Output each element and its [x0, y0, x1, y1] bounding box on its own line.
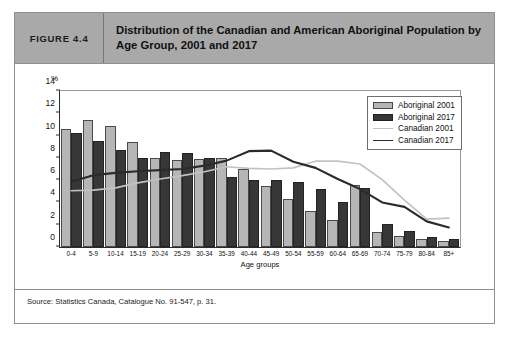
bar-aboriginal-2017-35-39 — [227, 177, 237, 247]
y-axis-tick-mark — [56, 90, 60, 91]
bar-group: 20-24 — [149, 91, 171, 247]
x-axis-tick-label: 85+ — [443, 250, 454, 257]
bar-aboriginal-2017-60-64 — [338, 202, 348, 247]
source-divider — [15, 289, 494, 290]
legend-swatch-icon — [373, 114, 393, 121]
bar-aboriginal-2001-40-44 — [238, 169, 248, 247]
x-axis-tick-label: 25-29 — [174, 250, 190, 257]
legend-label: Canadian 2017 — [398, 136, 454, 145]
x-axis-tick-label: 5-9 — [89, 250, 98, 257]
bar-aboriginal-2001-15-19 — [127, 142, 137, 247]
bar-group: 15-19 — [127, 91, 149, 247]
chart-area: % 0-45-910-1415-1920-2425-2930-3435-3940… — [15, 64, 494, 290]
bar-aboriginal-2001-50-54 — [283, 199, 293, 247]
x-axis-tick-label: 45-49 — [263, 250, 279, 257]
legend-label: Aboriginal 2001 — [398, 101, 455, 110]
bar-aboriginal-2001-35-39 — [216, 158, 226, 247]
y-axis-tick-mark — [56, 223, 60, 224]
legend-item-aboriginal-2017: Aboriginal 2017 — [373, 113, 455, 122]
bar-group: 45-49 — [260, 91, 282, 247]
y-axis-tick-mark — [56, 201, 60, 202]
bar-group: 55-59 — [304, 91, 326, 247]
bar-aboriginal-2017-30-34 — [204, 158, 214, 247]
figure-title: Distribution of the Canadian and America… — [104, 13, 494, 63]
chart-legend: Aboriginal 2001 Aboriginal 2017 Canadian… — [367, 96, 462, 150]
x-axis-tick-label: 15-19 — [130, 250, 146, 257]
x-axis-tick-label: 75-79 — [396, 250, 412, 257]
y-axis-tick-label: 2 — [50, 210, 60, 220]
x-axis-tick-label: 70-74 — [374, 250, 390, 257]
bar-aboriginal-2017-65-69 — [360, 188, 370, 247]
bar-aboriginal-2001-25-29 — [172, 160, 182, 247]
bar-aboriginal-2001-45-49 — [261, 186, 271, 247]
x-axis-tick-label: 60-64 — [330, 250, 346, 257]
bar-aboriginal-2001-30-34 — [194, 159, 204, 247]
y-axis-tick-mark — [56, 112, 60, 113]
y-axis-tick-label: 0 — [50, 232, 60, 242]
x-axis-tick-label: 20-24 — [152, 250, 168, 257]
bar-aboriginal-2001-70-74 — [372, 232, 382, 247]
bar-group: 40-44 — [238, 91, 260, 247]
legend-line-icon — [373, 140, 393, 141]
legend-item-canadian-2017: Canadian 2017 — [373, 136, 455, 145]
x-axis-tick-label: 50-54 — [285, 250, 301, 257]
bar-aboriginal-2017-25-29 — [182, 153, 192, 247]
x-axis-tick-label: 65-69 — [352, 250, 368, 257]
bar-aboriginal-2017-70-74 — [382, 224, 392, 247]
x-axis-tick-label: 10-14 — [107, 250, 123, 257]
bar-group: 30-34 — [193, 91, 215, 247]
bar-aboriginal-2017-50-54 — [293, 182, 303, 247]
figure-card: FIGURE 4.4 Distribution of the Canadian … — [14, 12, 495, 324]
bar-aboriginal-2001-55-59 — [305, 211, 315, 247]
bar-aboriginal-2017-15-19 — [138, 158, 148, 247]
bar-group: 0-4 — [60, 91, 82, 247]
legend-item-aboriginal-2001: Aboriginal 2001 — [373, 101, 455, 110]
x-axis-tick-label: 0-4 — [66, 250, 75, 257]
y-axis-tick-label: 8 — [50, 143, 60, 153]
bar-group: 5-9 — [82, 91, 104, 247]
x-axis-tick-label: 30-34 — [196, 250, 212, 257]
y-axis-tick-mark — [56, 156, 60, 157]
legend-label: Canadian 2001 — [398, 124, 454, 133]
figure-number: FIGURE 4.4 — [15, 13, 104, 63]
y-axis-tick-label: 12 — [46, 98, 60, 108]
bar-aboriginal-2001-60-64 — [327, 220, 337, 247]
bar-group: 60-64 — [327, 91, 349, 247]
x-axis-tick-label: 40-44 — [241, 250, 257, 257]
y-axis-tick-label: 10 — [46, 121, 60, 131]
bar-aboriginal-2017-45-49 — [271, 180, 281, 247]
y-axis-tick-label: 14 — [46, 76, 60, 86]
bar-group: 50-54 — [282, 91, 304, 247]
bar-aboriginal-2001-0-4 — [61, 129, 71, 247]
bar-aboriginal-2001-80-84 — [416, 239, 426, 247]
x-axis-tick-label: 35-39 — [218, 250, 234, 257]
bar-group: 35-39 — [216, 91, 238, 247]
y-axis-tick-mark — [56, 179, 60, 180]
y-axis-tick-mark — [56, 246, 60, 247]
bar-aboriginal-2017-10-14 — [116, 150, 126, 247]
bar-aboriginal-2001-75-79 — [394, 236, 404, 247]
bar-group: 10-14 — [104, 91, 126, 247]
y-axis-tick-label: 6 — [50, 165, 60, 175]
bar-aboriginal-2001-20-24 — [150, 158, 160, 247]
y-axis-tick-label: 4 — [50, 187, 60, 197]
legend-line-icon — [373, 128, 393, 129]
bar-aboriginal-2017-85+ — [449, 239, 459, 247]
bar-aboriginal-2001-65-69 — [350, 185, 360, 247]
source-note: Source: Statistics Canada, Catalogue No.… — [27, 297, 216, 306]
x-axis-title: Age groups — [59, 260, 461, 269]
bar-aboriginal-2017-75-79 — [404, 231, 414, 247]
legend-label: Aboriginal 2017 — [398, 113, 455, 122]
bar-aboriginal-2017-20-24 — [160, 152, 170, 247]
bar-aboriginal-2017-40-44 — [249, 180, 259, 247]
bar-aboriginal-2001-5-9 — [83, 120, 93, 247]
figure-header: FIGURE 4.4 Distribution of the Canadian … — [15, 13, 494, 64]
bar-aboriginal-2017-0-4 — [71, 133, 81, 247]
bar-aboriginal-2001-85+ — [438, 241, 448, 247]
bar-aboriginal-2017-80-84 — [427, 237, 437, 247]
bar-aboriginal-2017-55-59 — [316, 189, 326, 248]
legend-item-canadian-2001: Canadian 2001 — [373, 124, 455, 133]
bar-aboriginal-2001-10-14 — [105, 126, 115, 247]
x-axis-tick-label: 55-59 — [307, 250, 323, 257]
bar-aboriginal-2017-5-9 — [93, 141, 103, 247]
